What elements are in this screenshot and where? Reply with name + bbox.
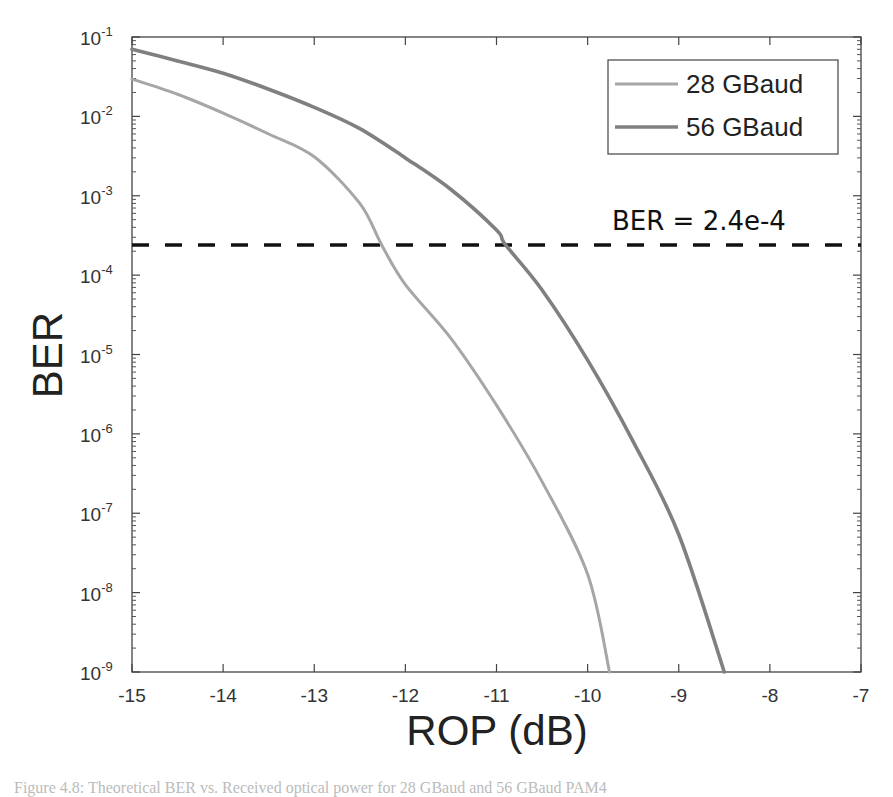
x-tick-label: -14 xyxy=(209,685,237,706)
y-axis-title: BER xyxy=(24,312,71,398)
x-tick-label: -8 xyxy=(761,685,778,706)
x-tick-label: -9 xyxy=(670,685,687,706)
x-tick-label: -10 xyxy=(574,685,601,706)
y-tick-label: 10-8 xyxy=(80,580,113,605)
series-line-28-gbaud xyxy=(132,79,609,672)
x-tick-label: -15 xyxy=(118,685,145,706)
y-tick-label: 10-2 xyxy=(80,103,113,128)
y-tick-label: 10-4 xyxy=(80,262,113,287)
x-tick-label: -12 xyxy=(392,685,419,706)
x-axis-title: ROP (dB) xyxy=(406,707,587,754)
figure-caption: Figure 4.8: Theoretical BER vs. Received… xyxy=(14,779,607,797)
x-tick-label: -13 xyxy=(301,685,328,706)
y-tick-label: 10-7 xyxy=(80,500,113,525)
legend: 28 GBaud 56 GBaud xyxy=(608,60,838,154)
y-tick-label: 10-9 xyxy=(80,659,113,684)
threshold-annotation: BER = 2.4e-4 xyxy=(612,206,786,236)
y-tick-label: 10-6 xyxy=(80,421,113,446)
y-tick-label: 10-3 xyxy=(80,183,113,208)
legend-label-56gbaud: 56 GBaud xyxy=(686,112,803,142)
y-tick-label: 10-1 xyxy=(80,24,113,49)
y-tick-label: 10-5 xyxy=(80,342,113,367)
x-tick-label: -7 xyxy=(853,685,870,706)
legend-label-28gbaud: 28 GBaud xyxy=(686,69,803,99)
x-tick-label: -11 xyxy=(483,685,509,706)
